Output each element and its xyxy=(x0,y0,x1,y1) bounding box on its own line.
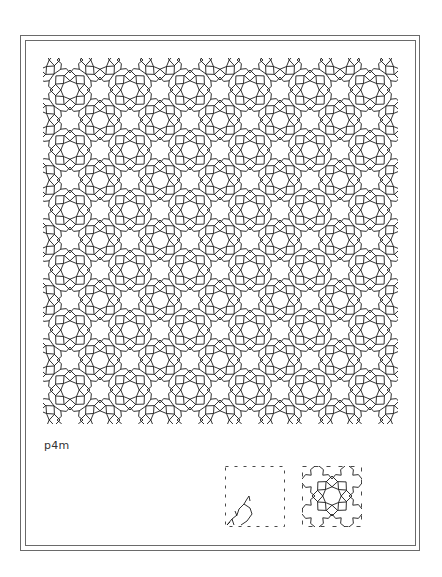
fundamental-region xyxy=(225,466,285,527)
unit-cell xyxy=(302,466,362,527)
tiling-pattern xyxy=(43,58,398,424)
symmetry-group-label: p4m xyxy=(44,439,70,452)
